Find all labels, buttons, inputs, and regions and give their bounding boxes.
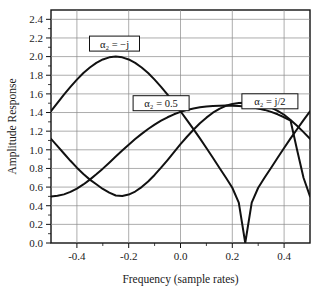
amplitude-response-chart: 0.00.20.40.60.81.01.21.41.61.82.02.22.4 … [0, 0, 325, 291]
annotation-label: α₂ = j/2 [254, 96, 285, 107]
y-tick-label: 2.0 [29, 50, 43, 62]
x-tick-label: 0.2 [225, 250, 239, 262]
x-tick-label: -0.4 [68, 250, 86, 262]
annotation-2: α₂ = j/2 [242, 94, 298, 109]
y-tick-label: 1.2 [29, 125, 43, 137]
y-tick-label: 0.4 [29, 200, 43, 212]
y-tick-label: 0.2 [29, 218, 43, 230]
y-tick-label: 0.0 [29, 237, 43, 249]
y-tick-label: 2.4 [29, 13, 43, 25]
annotation-label: α₂ = 0.5 [144, 98, 177, 109]
y-tick-label: 1.6 [29, 88, 43, 100]
x-tick-label: -0.2 [120, 250, 137, 262]
y-tick-label: 0.6 [29, 181, 43, 193]
annotation-0: α₂ = −j [90, 36, 140, 51]
y-tick-label: 1.0 [29, 144, 43, 156]
x-tick-label: 0.4 [277, 250, 291, 262]
y-axis-title: Amplitude Response [6, 78, 19, 174]
annotation-label: α₂ = −j [100, 39, 129, 50]
y-tick-label: 0.8 [29, 162, 43, 174]
chart-figure: 0.00.20.40.60.81.01.21.41.61.82.02.22.4 … [0, 0, 325, 291]
annotation-1: α₂ = 0.5 [133, 96, 189, 111]
x-axis-title: Frequency (sample rates) [122, 273, 238, 286]
x-tick-label: 0.0 [174, 250, 188, 262]
y-tick-label: 1.8 [29, 69, 43, 81]
y-tick-label: 1.4 [29, 106, 43, 118]
y-tick-label: 2.2 [29, 32, 43, 44]
